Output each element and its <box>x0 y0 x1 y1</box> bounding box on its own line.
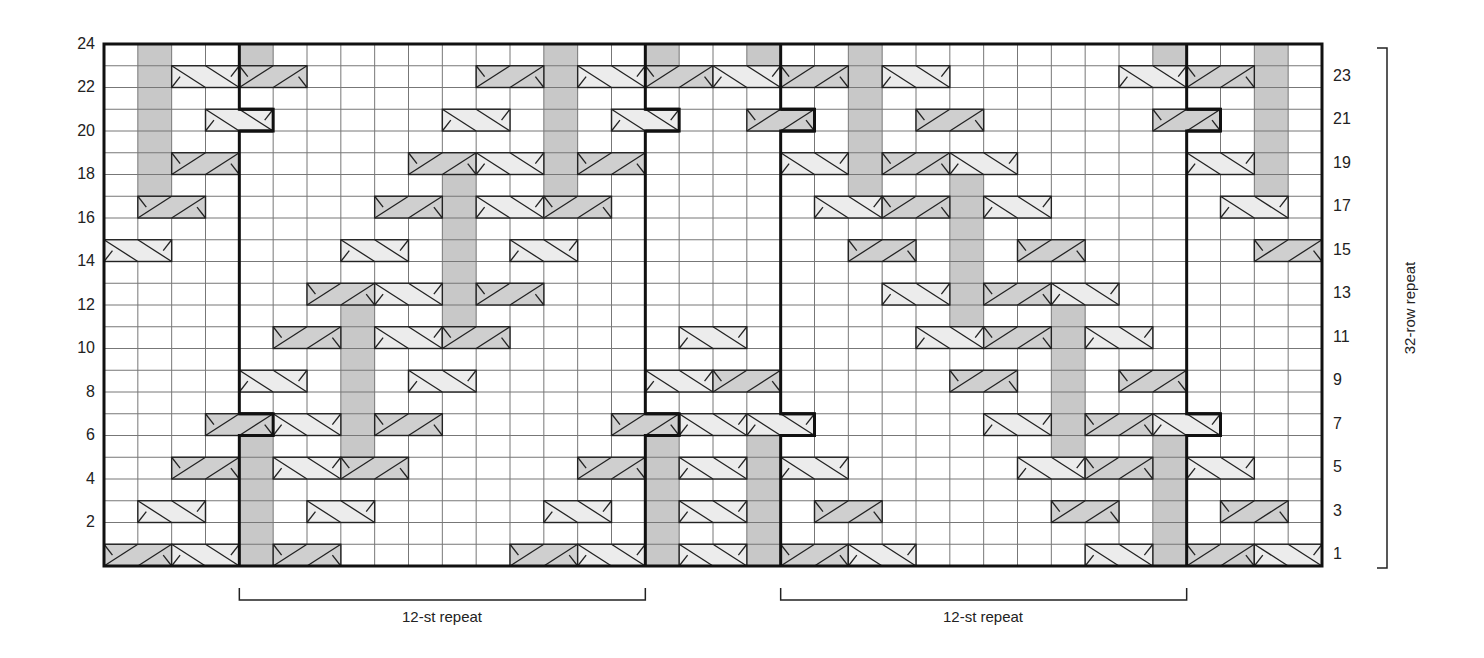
cable-left-cross-icon <box>544 196 612 218</box>
cable-left-cross-icon <box>476 283 544 305</box>
row-number-label: 23 <box>1333 67 1373 85</box>
cable-right-cross-icon <box>307 501 375 523</box>
cable-right-cross-icon <box>713 66 781 88</box>
row-number-label: 5 <box>1333 458 1373 476</box>
cable-right-cross-icon <box>544 501 612 523</box>
cable-right-cross-icon <box>138 501 206 523</box>
cable-right-cross-icon <box>510 240 578 262</box>
cable-left-cross-icon <box>612 414 680 436</box>
row-number-label: 13 <box>1333 284 1373 302</box>
cable-left-cross-icon <box>713 370 781 392</box>
shaded-stitch-column <box>1051 305 1085 457</box>
shaded-stitch-column <box>848 44 882 196</box>
cable-right-cross-icon <box>1153 414 1221 436</box>
cable-left-cross-icon <box>645 66 713 88</box>
row-number-label: 4 <box>55 470 95 488</box>
cable-left-cross-icon <box>984 327 1052 349</box>
row-number-label: 20 <box>55 122 95 140</box>
cable-right-cross-icon <box>578 544 646 566</box>
cable-left-cross-icon <box>882 196 950 218</box>
cable-left-cross-icon <box>442 327 510 349</box>
cable-right-cross-icon <box>984 414 1052 436</box>
cable-left-cross-icon <box>1254 240 1322 262</box>
cable-left-cross-icon <box>1187 66 1255 88</box>
cable-left-cross-icon <box>239 66 307 88</box>
cable-left-cross-icon <box>1051 501 1119 523</box>
cable-left-cross-icon <box>341 457 409 479</box>
cable-right-cross-icon <box>781 153 849 175</box>
cable-right-cross-icon <box>1187 457 1255 479</box>
cable-right-cross-icon <box>848 544 916 566</box>
cable-right-cross-icon <box>273 414 341 436</box>
cable-right-cross-icon <box>442 109 510 131</box>
cable-right-cross-icon <box>206 109 274 131</box>
cable-right-cross-icon <box>747 414 815 436</box>
cable-right-cross-icon <box>679 414 747 436</box>
cable-right-cross-icon <box>1254 544 1322 566</box>
cable-right-cross-icon <box>984 196 1052 218</box>
cable-left-cross-icon <box>273 544 341 566</box>
row-number-label: 16 <box>55 209 95 227</box>
cable-left-cross-icon <box>1221 501 1289 523</box>
cable-left-cross-icon <box>138 196 206 218</box>
shaded-stitch-column <box>1153 44 1187 66</box>
cable-left-cross-icon <box>172 153 240 175</box>
cable-left-cross-icon <box>578 153 646 175</box>
cable-left-cross-icon <box>916 109 984 131</box>
row-number-label: 1 <box>1333 545 1373 563</box>
cable-right-cross-icon <box>679 457 747 479</box>
cable-right-cross-icon <box>781 457 849 479</box>
cable-left-cross-icon <box>1085 414 1153 436</box>
row-number-label: 8 <box>55 383 95 401</box>
cable-right-cross-icon <box>375 327 443 349</box>
row-number-label: 14 <box>55 252 95 270</box>
cable-left-cross-icon <box>206 414 274 436</box>
cable-right-cross-icon <box>409 370 477 392</box>
cable-left-cross-icon <box>781 66 849 88</box>
cable-right-cross-icon <box>239 370 307 392</box>
cable-right-cross-icon <box>104 240 172 262</box>
cable-right-cross-icon <box>172 544 240 566</box>
cable-left-cross-icon <box>815 501 883 523</box>
cable-chart <box>0 0 1484 658</box>
cable-right-cross-icon <box>578 66 646 88</box>
cable-left-cross-icon <box>950 370 1018 392</box>
cable-right-cross-icon <box>882 283 950 305</box>
cable-right-cross-icon <box>476 196 544 218</box>
cable-left-cross-icon <box>375 414 443 436</box>
cable-right-cross-icon <box>341 240 409 262</box>
cable-left-cross-icon <box>510 544 578 566</box>
cable-left-cross-icon <box>747 109 815 131</box>
row-number-label: 3 <box>1333 502 1373 520</box>
cable-left-cross-icon <box>1153 109 1221 131</box>
row-number-label: 19 <box>1333 154 1373 172</box>
shaded-stitch-column <box>239 44 273 66</box>
row-number-label: 10 <box>55 339 95 357</box>
row-number-label: 24 <box>55 35 95 53</box>
cable-right-cross-icon <box>612 109 680 131</box>
cable-left-cross-icon <box>1119 370 1187 392</box>
cable-right-cross-icon <box>645 370 713 392</box>
shaded-stitch-column <box>645 44 679 66</box>
cable-right-cross-icon <box>1018 457 1086 479</box>
cable-right-cross-icon <box>679 327 747 349</box>
row-number-label: 17 <box>1333 197 1373 215</box>
row-number-label: 11 <box>1333 328 1373 346</box>
shaded-stitch-column <box>341 305 375 457</box>
shaded-stitch-column <box>1254 44 1288 196</box>
stitch-repeat-bracket <box>239 588 645 600</box>
cable-right-cross-icon <box>172 66 240 88</box>
row-number-label: 22 <box>55 78 95 96</box>
row-repeat-bracket <box>1377 48 1387 568</box>
cable-left-cross-icon <box>1085 457 1153 479</box>
cable-left-cross-icon <box>848 240 916 262</box>
cable-left-cross-icon <box>1018 240 1086 262</box>
row-number-label: 9 <box>1333 371 1373 389</box>
shaded-stitch-column <box>544 44 578 196</box>
cable-right-cross-icon <box>916 327 984 349</box>
cable-left-cross-icon <box>476 66 544 88</box>
cable-right-cross-icon <box>476 153 544 175</box>
cable-right-cross-icon <box>375 283 443 305</box>
cable-right-cross-icon <box>1119 66 1187 88</box>
cable-right-cross-icon <box>1187 153 1255 175</box>
